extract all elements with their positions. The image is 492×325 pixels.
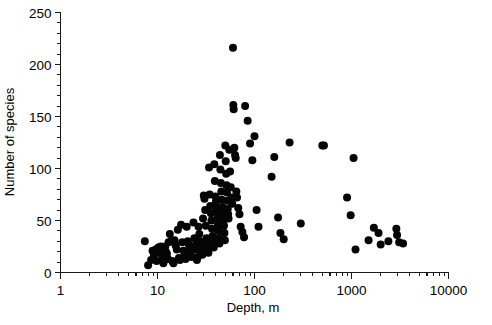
chart-canvas: 050100150200250 110100100010000 Depth, m… <box>0 0 492 325</box>
data-point <box>270 153 278 161</box>
data-point <box>268 173 276 181</box>
data-point <box>244 117 252 125</box>
data-point <box>274 213 282 221</box>
data-point <box>347 211 355 219</box>
scatter-plot-figure: 050100150200250 110100100010000 Depth, m… <box>0 0 492 325</box>
data-point <box>183 223 191 231</box>
y-tick-label: 100 <box>29 162 52 177</box>
data-point <box>141 237 149 245</box>
data-point <box>230 105 238 113</box>
data-point <box>226 168 234 176</box>
x-tick-label: 1000 <box>336 283 366 298</box>
data-point <box>248 156 256 164</box>
data-point <box>220 229 228 237</box>
data-point <box>352 246 360 254</box>
data-point <box>241 102 249 110</box>
data-point <box>246 140 254 148</box>
data-point <box>233 194 241 202</box>
data-point <box>393 231 401 239</box>
data-point <box>225 214 233 222</box>
data-point <box>365 236 373 244</box>
data-point <box>297 220 305 228</box>
data-point <box>399 239 407 247</box>
data-point <box>377 240 385 248</box>
data-point <box>240 233 248 241</box>
y-tick-label: 200 <box>29 58 52 73</box>
data-point <box>343 194 351 202</box>
plot-background <box>0 0 492 325</box>
data-point <box>195 230 203 238</box>
y-tick-label: 50 <box>36 214 51 229</box>
data-point <box>253 206 261 214</box>
data-point <box>280 235 288 243</box>
data-point <box>384 237 392 245</box>
x-axis-title: Depth, m <box>227 300 280 315</box>
data-point <box>222 157 230 165</box>
y-axis-title: Number of species <box>2 87 17 196</box>
data-point <box>286 139 294 147</box>
data-point <box>255 223 263 231</box>
x-tick-label: 10 <box>150 283 165 298</box>
data-point <box>229 44 237 52</box>
data-point <box>251 132 259 140</box>
data-point <box>199 214 207 222</box>
data-point <box>210 160 218 168</box>
data-point <box>195 223 203 231</box>
data-point <box>375 229 383 237</box>
data-point <box>220 222 228 230</box>
x-tick-label: 100 <box>243 283 266 298</box>
data-point <box>230 144 238 152</box>
x-tick-label: 1 <box>57 283 65 298</box>
y-tick-label: 0 <box>44 266 52 281</box>
data-point <box>235 210 243 218</box>
data-point <box>216 151 224 159</box>
data-point <box>232 154 240 162</box>
data-point <box>350 154 358 162</box>
data-point <box>320 142 328 150</box>
y-tick-label: 250 <box>29 6 52 21</box>
x-tick-label: 10000 <box>430 283 468 298</box>
data-point <box>221 236 229 244</box>
y-tick-label: 150 <box>29 110 52 125</box>
